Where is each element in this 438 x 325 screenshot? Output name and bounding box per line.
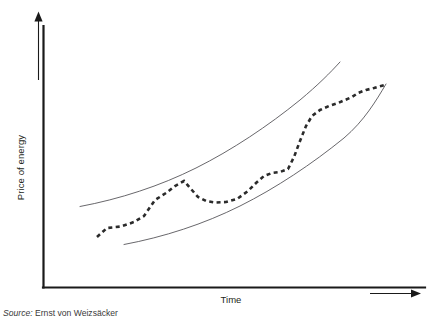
actual-price-dashed-curve: [97, 85, 386, 238]
energy-price-chart: [0, 0, 438, 325]
source-prefix: Source:: [3, 308, 33, 318]
x-axis-label: Time: [186, 294, 276, 305]
lower-trend-curve: [124, 84, 386, 245]
upper-trend-curve: [80, 62, 340, 207]
y-axis-arrow-icon: [34, 12, 42, 81]
source-name: Ernst von Weizsäcker: [35, 308, 118, 318]
x-axis-arrow-icon: [370, 289, 421, 297]
source-caption: Source: Ernst von Weizsäcker: [3, 308, 118, 318]
